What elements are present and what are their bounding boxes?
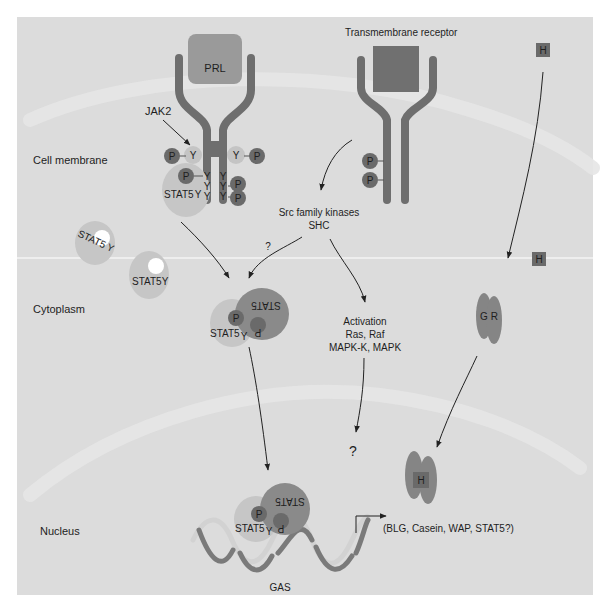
label-cell-membrane: Cell membrane	[33, 154, 108, 166]
jak2-label: JAK2	[145, 105, 171, 117]
stat5-dimer-right-label: STAT5	[251, 300, 281, 311]
stat5-dimer-right-label: STAT5	[275, 496, 305, 507]
bound-hormone-label: H	[417, 475, 424, 486]
transmembrane-ligand	[373, 46, 419, 92]
phospho-label: P	[367, 156, 374, 167]
receptor-tyrosines-right: Y	[220, 191, 227, 202]
stat5-signaling-diagram: Cell membrane Cytoplasm Nucleus PRL JAK2…	[0, 0, 610, 609]
phospho-label: P	[367, 175, 374, 186]
phospho-label: P	[183, 171, 190, 182]
hormone-label: H	[539, 45, 546, 56]
stat5-monomer-b: STAT5Y	[129, 251, 169, 299]
phospho-label: P	[256, 509, 263, 520]
hormone-label: H	[535, 254, 542, 265]
phospho-label: P	[235, 179, 242, 190]
prl-ligand	[188, 34, 242, 84]
phospho-label: P	[169, 151, 176, 162]
unphosphorylated-site	[148, 258, 164, 274]
src-kinases-label: Src family kinases	[279, 207, 360, 218]
stat5-docked-label: STAT5Y	[164, 189, 202, 200]
prl-ligand-label: PRL	[204, 62, 225, 74]
phospho-label-flipped: P	[254, 327, 261, 338]
tyrosine-label: Y	[233, 150, 240, 161]
label-nucleus: Nucleus	[40, 525, 80, 537]
src-uncertain-mark: ?	[265, 241, 271, 252]
jak2-bridge	[205, 141, 225, 157]
phospho-label: P	[233, 313, 240, 324]
tyrosine-label: Y	[190, 150, 197, 161]
receptor-tyrosines-left: Y	[204, 191, 211, 202]
mapk-label: MAPK-K, MAPK	[329, 342, 402, 353]
stat5-monomer-b-label: STAT5Y	[132, 276, 169, 287]
stat5-body	[129, 251, 169, 299]
transmembrane-receptor-label: Transmembrane receptor	[345, 27, 458, 38]
phospho-label: P	[254, 151, 261, 162]
mapk-unknown-outcome: ?	[349, 443, 357, 459]
target-genes-label: (BLG, Casein, WAP, STAT5?)	[383, 523, 514, 534]
phospho-label-flipped: P	[277, 523, 284, 534]
shc-label: SHC	[308, 220, 329, 231]
gas-element-label: GAS	[269, 582, 290, 593]
mapk-activation-label: Activation	[343, 316, 386, 327]
ras-raf-label: Ras, Raf	[346, 329, 385, 340]
gr-label: G R	[480, 311, 498, 322]
phospho-label: P	[235, 193, 242, 204]
label-cytoplasm: Cytoplasm	[33, 303, 85, 315]
